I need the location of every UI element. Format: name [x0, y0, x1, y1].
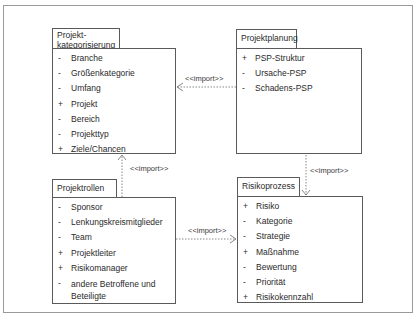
dependency-arrows — [0, 0, 419, 322]
import-label: <<import>> — [310, 166, 348, 175]
import-label: <<import>> — [185, 74, 223, 83]
import-label: <<import>> — [130, 164, 168, 173]
import-label: <<import>> — [188, 226, 226, 235]
